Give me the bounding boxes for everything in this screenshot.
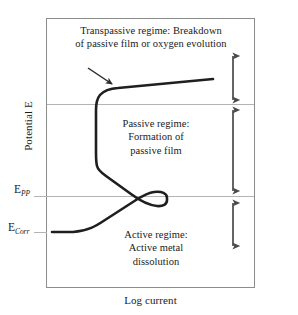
annotation-active-line-3: dissolution bbox=[96, 255, 216, 268]
x-axis-title: Log current bbox=[46, 294, 255, 306]
tick-label-ecorr: ECorr bbox=[8, 222, 29, 234]
polarization-curve-figure: Potential E Log current EPP ECorr bbox=[0, 0, 298, 315]
y-axis-title: Potential E bbox=[22, 76, 34, 176]
annotation-transpassive-regime: Transpassive regime: Breakdown of passiv… bbox=[58, 24, 244, 51]
annotation-passive-line-2: Formation of bbox=[96, 130, 216, 143]
annotation-active-line-1: Active regime: bbox=[96, 228, 216, 241]
annotation-transpassive-line-2: of passive film or oxygen evolution bbox=[58, 37, 244, 50]
tick-label-epp-symbol: E bbox=[14, 183, 21, 195]
annotation-passive-line-3: passive film bbox=[96, 144, 216, 157]
annotation-passive-regime: Passive regime: Formation of passive fil… bbox=[96, 117, 216, 157]
annotation-active-regime: Active regime: Active metal dissolution bbox=[96, 228, 216, 268]
annotation-passive-line-1: Passive regime: bbox=[96, 117, 216, 130]
tick-label-ecorr-symbol: E bbox=[8, 221, 15, 233]
annotation-active-line-2: Active metal bbox=[96, 241, 216, 254]
tick-label-epp: EPP bbox=[14, 184, 30, 196]
annotation-transpassive-line-1: Transpassive regime: Breakdown bbox=[58, 24, 244, 37]
tick-label-epp-subscript: PP bbox=[21, 189, 30, 198]
tick-label-ecorr-subscript: Corr bbox=[15, 227, 29, 236]
